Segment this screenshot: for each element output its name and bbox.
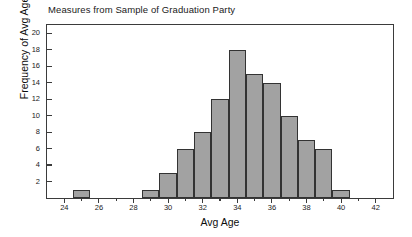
y-tick-line xyxy=(47,181,52,182)
y-tick-label: 8 xyxy=(24,126,40,137)
histogram-bar xyxy=(159,173,176,198)
histogram-bar xyxy=(73,190,90,198)
histogram-bar xyxy=(177,149,194,198)
y-tick-line xyxy=(47,33,52,34)
histogram-bar xyxy=(246,74,263,198)
x-tick-minor-line xyxy=(289,198,290,201)
x-tick-minor-line xyxy=(150,198,151,201)
x-tick-line xyxy=(341,198,342,203)
x-tick-label: 42 xyxy=(366,203,386,213)
x-tick-minor-line xyxy=(254,198,255,201)
x-tick-label: 28 xyxy=(124,203,144,213)
x-tick-line xyxy=(168,198,169,203)
y-tick-line xyxy=(47,132,52,133)
histogram-bar xyxy=(211,99,228,198)
histogram-bar xyxy=(229,50,246,198)
histogram-bar xyxy=(298,140,315,198)
y-tick-label: 6 xyxy=(24,143,40,154)
y-tick-label: 4 xyxy=(24,159,40,170)
x-tick-minor-line xyxy=(323,198,324,201)
x-tick-label: 38 xyxy=(297,203,317,213)
histogram-bar xyxy=(281,116,298,198)
histogram-bar xyxy=(315,149,332,198)
x-tick-line xyxy=(271,198,272,203)
y-axis-label: Frequency of Avg Age xyxy=(18,0,30,118)
histogram-bar xyxy=(194,132,211,198)
plot-area: 2468101214161820 24262830323436384042 xyxy=(46,24,394,199)
y-tick-line xyxy=(47,148,52,149)
x-tick-label: 32 xyxy=(193,203,213,213)
y-tick-label: 2 xyxy=(24,176,40,187)
x-tick-label: 34 xyxy=(227,203,247,213)
x-tick-minor-line xyxy=(81,198,82,201)
x-tick-line xyxy=(306,198,307,203)
x-tick-minor-line xyxy=(358,198,359,201)
histogram-bar xyxy=(263,83,280,198)
x-tick-line xyxy=(202,198,203,203)
x-tick-minor-line xyxy=(185,198,186,201)
y-tick-line xyxy=(47,164,52,165)
chart-title: Measures from Sample of Graduation Party xyxy=(48,4,235,15)
x-tick-label: 40 xyxy=(331,203,351,213)
y-tick-line xyxy=(47,66,52,67)
y-tick-line xyxy=(47,49,52,50)
x-tick-line xyxy=(375,198,376,203)
histogram-chart: Measures from Sample of Graduation Party… xyxy=(0,0,412,237)
x-tick-label: 30 xyxy=(158,203,178,213)
x-tick-label: 36 xyxy=(262,203,282,213)
histogram-bar xyxy=(332,190,349,198)
x-tick-line xyxy=(98,198,99,203)
x-tick-line xyxy=(133,198,134,203)
y-tick-line xyxy=(47,99,52,100)
histogram-bar xyxy=(142,190,159,198)
x-tick-line xyxy=(237,198,238,203)
x-tick-minor-line xyxy=(116,198,117,201)
x-tick-minor-line xyxy=(219,198,220,201)
x-axis-label: Avg Age xyxy=(46,216,394,228)
x-tick-label: 26 xyxy=(89,203,109,213)
y-tick-line xyxy=(47,115,52,116)
y-tick-line xyxy=(47,82,52,83)
x-tick-label: 24 xyxy=(54,203,74,213)
x-tick-line xyxy=(64,198,65,203)
